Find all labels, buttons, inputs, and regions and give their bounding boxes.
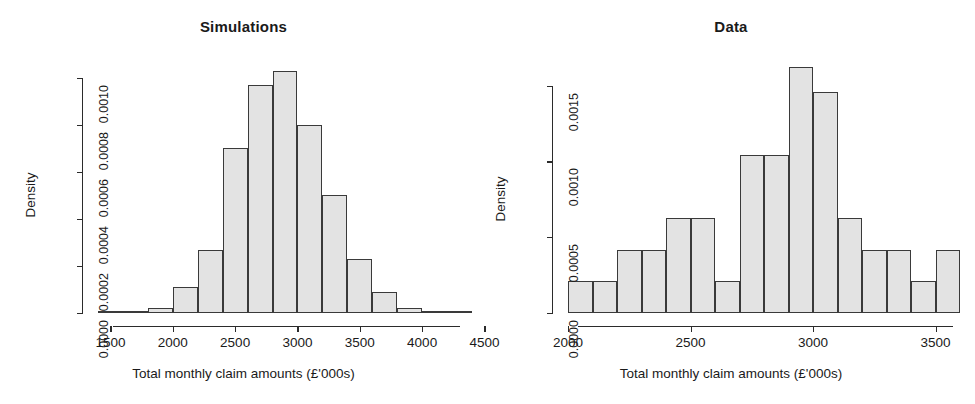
histogram-bar [148, 308, 173, 313]
y-axis-tick-label: 0.0015 [567, 93, 581, 131]
y-axis-tick-label: 0.0006 [97, 179, 111, 217]
chart-title-simulations: Simulations [0, 18, 487, 35]
y-axis-tick [77, 125, 83, 126]
x-axis-tick [422, 326, 423, 332]
histogram-bar [911, 281, 936, 313]
x-axis-tick-label: 2500 [675, 335, 705, 350]
y-axis-tick-label: 0.0008 [97, 132, 111, 170]
x-axis-tick-label: 3000 [798, 335, 828, 350]
histogram-bar [273, 71, 298, 313]
histogram-bar [789, 67, 814, 313]
x-axis-tick [484, 326, 485, 332]
y-axis-tick [77, 266, 83, 267]
y-axis-tick-label: 0.0010 [567, 168, 581, 206]
histogram-bar [617, 250, 642, 313]
x-axis-tick-label: 3000 [282, 335, 312, 350]
y-axis-tick-label: 0.0005 [567, 244, 581, 282]
y-axis-line [82, 78, 83, 313]
histogram-bar [764, 155, 789, 313]
chart-title-data: Data [487, 18, 975, 35]
histogram-figure: Simulations Density 0.00000.00020.00040.… [0, 0, 975, 404]
y-axis-tick [77, 78, 83, 79]
histogram-bar [198, 250, 223, 314]
y-axis-tick-label: 0.0004 [97, 226, 111, 264]
x-axis-label-simulations: Total monthly claim amounts (£'000s) [0, 366, 487, 381]
histogram-bar [666, 218, 691, 313]
histogram-bar [322, 195, 347, 313]
x-axis-tick [936, 326, 937, 332]
x-axis-tick [173, 326, 174, 332]
x-axis-tick [360, 326, 361, 332]
histogram-bar [297, 125, 322, 313]
x-axis-tick-label: 2000 [158, 335, 188, 350]
histogram-bar [691, 218, 716, 313]
panel-simulations: Simulations Density 0.00000.00020.00040.… [0, 0, 487, 404]
y-axis-label-data: Density [493, 177, 508, 222]
y-axis-tick [77, 172, 83, 173]
x-axis-tick-label: 3500 [345, 335, 375, 350]
histogram-bar [248, 85, 273, 313]
x-axis-tick [691, 326, 692, 332]
histogram-bar [740, 155, 765, 313]
histogram-bar [347, 259, 372, 313]
histogram-bar [936, 250, 961, 313]
histogram-bar [887, 250, 912, 313]
histogram-bar [838, 218, 863, 313]
x-axis-tick-label: 2500 [220, 335, 250, 350]
y-axis-tick-label: 0.0002 [97, 273, 111, 311]
histogram-bar [715, 281, 740, 313]
x-axis-tick-label: 3500 [920, 335, 950, 350]
histogram-bar [123, 311, 148, 313]
x-axis-tick-label: 2000 [553, 335, 583, 350]
panel-data: Data Density 0.00000.00050.00100.0015 20… [487, 0, 975, 404]
x-axis-tick [568, 326, 569, 332]
y-axis-tick [77, 313, 83, 314]
plot-area-simulations [98, 66, 472, 313]
histogram-bar [372, 292, 397, 313]
histogram-bar [447, 311, 472, 313]
x-axis-tick-label: 1500 [95, 335, 125, 350]
histogram-bar [173, 287, 198, 313]
histogram-bar [593, 281, 618, 313]
y-axis-tick [547, 237, 553, 238]
x-axis-label-data: Total monthly claim amounts (£'000s) [487, 366, 975, 381]
y-axis-tick [547, 161, 553, 162]
histogram-bar [223, 148, 248, 313]
histogram-bars-simulations [98, 66, 472, 313]
y-axis-tick [547, 86, 553, 87]
y-axis-tick-label: 0.0010 [97, 85, 111, 123]
histogram-bar [98, 311, 123, 313]
y-axis-tick [547, 313, 553, 314]
histogram-bar [568, 281, 593, 313]
x-axis-tick [297, 326, 298, 332]
x-axis-tick [813, 326, 814, 332]
y-axis-line [552, 86, 553, 313]
histogram-bar [862, 250, 887, 313]
x-axis-line [578, 326, 953, 327]
x-axis-tick [110, 326, 111, 332]
y-axis-tick [77, 219, 83, 220]
histogram-bars-data [568, 66, 960, 313]
histogram-bar [813, 92, 838, 313]
histogram-bar [397, 308, 422, 313]
x-axis-tick-label: 4000 [407, 335, 437, 350]
x-axis-line [113, 326, 460, 327]
plot-area-data [568, 66, 960, 313]
y-axis-label-simulations: Density [23, 173, 38, 218]
histogram-bar [422, 311, 447, 313]
histogram-bar [642, 250, 667, 313]
x-axis-tick [235, 326, 236, 332]
